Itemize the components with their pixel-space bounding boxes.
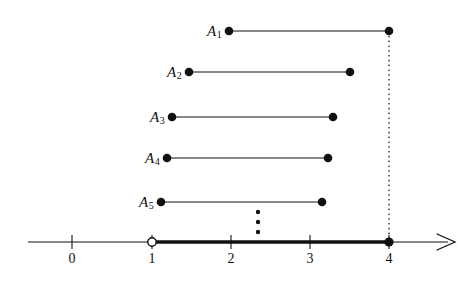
interval-a4-label-base: A [145,150,154,166]
interval-a3-label: A3 [150,109,165,126]
interval-a4-label: A4 [145,150,160,167]
interval-a2-label-base: A [167,64,176,80]
diagram-canvas [0,0,476,283]
axis-tick-label-0: 0 [69,251,76,267]
interval-a5-left-endpoint [157,198,166,207]
interval-diagram-figure: A1 A2 A3 A4 A5 0 1 2 3 4 [0,0,476,283]
interval-a2-group [185,68,355,77]
interval-a1-label: A1 [207,23,222,40]
interval-a4-label-subscript: 4 [155,156,160,167]
interval-a4-right-endpoint [324,154,333,163]
interval-a3-left-endpoint [168,113,177,122]
interval-a3-right-endpoint [329,113,338,122]
interval-a2-label-subscript: 2 [177,70,182,81]
interval-a3-group [168,113,338,122]
interval-a2-left-endpoint [185,68,194,77]
interval-a5-group [157,198,327,207]
interval-a4-left-endpoint [163,154,172,163]
interval-a5-right-endpoint [318,198,327,207]
interval-a4-group [163,154,333,163]
interval-open-endpoint-marker [148,238,156,246]
axis-tick-label-2: 2 [228,251,235,267]
highlighted-interval-group [148,237,394,246]
interval-a5-label-base: A [139,194,148,210]
axis-tick-label-4: 4 [386,251,393,267]
interval-a2-label: A2 [167,64,182,81]
interval-a1-left-endpoint [225,27,234,36]
interval-a5-label-subscript: 5 [149,200,154,211]
vertical-ellipsis-icon [256,210,260,234]
interval-a1-right-endpoint [385,27,394,36]
interval-a2-right-endpoint [346,68,355,77]
axis-tick-label-3: 3 [307,251,314,267]
axis-tick-label-1: 1 [149,251,156,267]
interval-a5-label: A5 [139,194,154,211]
interval-a1-label-subscript: 1 [217,29,222,40]
interval-a3-label-subscript: 3 [160,115,165,126]
interval-a3-label-base: A [150,109,159,125]
interval-a1-group [225,27,394,36]
interval-a1-label-base: A [207,23,216,39]
